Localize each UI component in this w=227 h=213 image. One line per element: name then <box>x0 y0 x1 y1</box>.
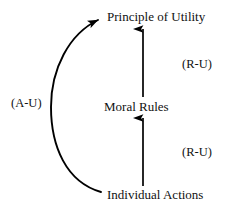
node-moral-rules: Moral Rules <box>104 100 169 113</box>
edge-label-act-utilitarian: (A-U) <box>11 97 42 110</box>
utilitarianism-diagram: Principle of Utility Moral Rules Individ… <box>0 0 227 213</box>
edge-label-rule-utilitarian-upper: (R-U) <box>182 58 212 71</box>
node-individual-actions: Individual Actions <box>107 188 203 201</box>
curved-arrow-individual-actions-to-principle-of-utility <box>51 20 101 192</box>
node-principle-of-utility: Principle of Utility <box>107 10 205 23</box>
edge-label-rule-utilitarian-lower: (R-U) <box>182 146 212 159</box>
